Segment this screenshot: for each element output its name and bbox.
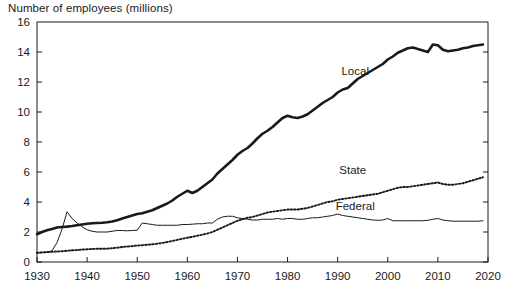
y-tick-label: 14 <box>17 46 30 58</box>
x-tick-label: 1990 <box>325 270 351 282</box>
x-tick-label: 1950 <box>124 270 150 282</box>
y-tick-label: 10 <box>17 106 30 118</box>
y-tick-label: 12 <box>17 76 30 88</box>
series-line-state <box>37 177 483 252</box>
y-tick-label: 0 <box>24 256 30 268</box>
series-annotations: LocalStateFederal <box>336 65 375 213</box>
series-line-federal <box>37 212 483 253</box>
y-tick-label: 2 <box>24 226 30 238</box>
plot-border <box>37 22 488 262</box>
x-tick-label: 1980 <box>275 270 301 282</box>
y-tick-label: 8 <box>24 136 30 148</box>
y-tick-label: 16 <box>17 16 30 28</box>
x-axis-ticks: 1930194019501960197019801990200020102020 <box>24 257 501 282</box>
chart-page: Number of employees (millions) 024681012… <box>0 0 506 293</box>
plot-frame <box>37 22 488 262</box>
x-tick-label: 1970 <box>225 270 251 282</box>
x-tick-label: 1930 <box>24 270 50 282</box>
series-label-state: State <box>339 164 366 176</box>
y-tick-label: 4 <box>24 196 31 208</box>
series-line-local <box>37 45 483 235</box>
x-tick-label: 1960 <box>175 270 201 282</box>
x-tick-label: 2000 <box>375 270 401 282</box>
series-lines <box>37 45 483 254</box>
x-tick-label: 2010 <box>425 270 451 282</box>
line-chart-plot: 0246810121416 19301940195019601970198019… <box>0 0 506 293</box>
x-tick-label: 2020 <box>475 270 501 282</box>
x-tick-label: 1940 <box>74 270 100 282</box>
series-label-federal: Federal <box>336 200 375 212</box>
series-label-local: Local <box>341 65 369 77</box>
y-tick-label: 6 <box>24 166 30 178</box>
